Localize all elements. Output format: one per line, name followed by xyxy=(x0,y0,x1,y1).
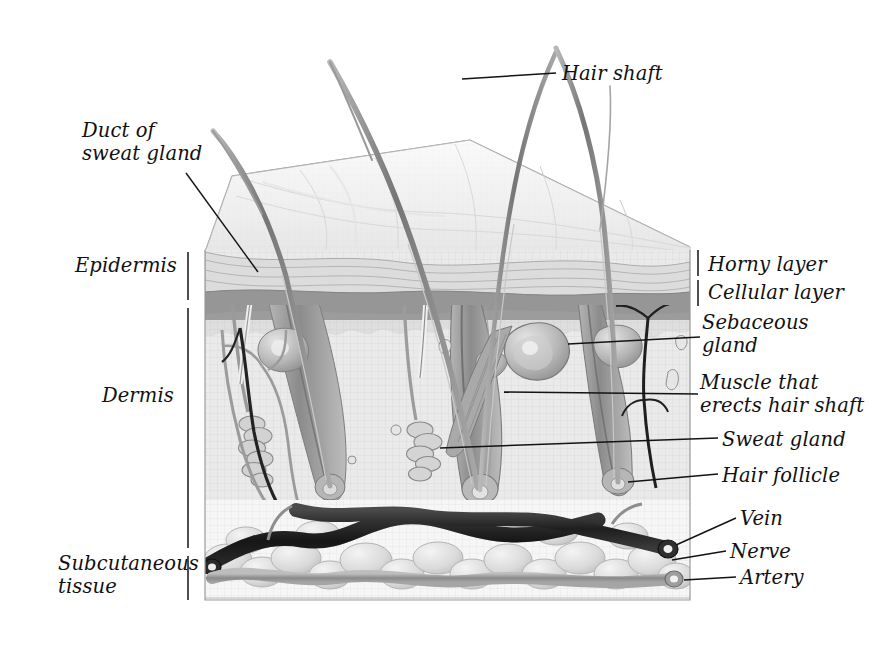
subcutaneous-tissue xyxy=(203,500,694,600)
label-horny-layer: Horny layer xyxy=(708,253,827,276)
label-sweat-gland: Sweat gland xyxy=(722,428,846,451)
label-cellular-layer: Cellular layer xyxy=(708,281,844,304)
label-hair-shaft: Hair shaft xyxy=(562,62,663,85)
label-muscle-that-erects-hair-shaft: Muscle that erects hair shaft xyxy=(700,371,864,417)
label-duct-of-sweat-gland: Duct of sweat gland xyxy=(82,119,202,165)
label-hair-follicle: Hair follicle xyxy=(722,464,840,487)
leader-artery xyxy=(684,577,736,580)
label-vein: Vein xyxy=(740,507,783,530)
label-sebaceous-gland: Sebaceous gland xyxy=(702,311,809,357)
sebaceous-gland xyxy=(504,323,569,380)
skin-surface-top-face xyxy=(205,140,690,252)
figure-canvas: Hair shaft Duct of sweat gland Epidermis… xyxy=(0,0,895,653)
label-subcutaneous-tissue: Subcutaneous tissue xyxy=(58,552,199,598)
label-epidermis: Epidermis xyxy=(75,254,177,277)
label-dermis: Dermis xyxy=(102,384,174,407)
leader-hair-shaft xyxy=(462,73,556,79)
label-nerve: Nerve xyxy=(730,540,791,563)
skin-block xyxy=(203,48,694,600)
label-artery: Artery xyxy=(740,566,804,589)
